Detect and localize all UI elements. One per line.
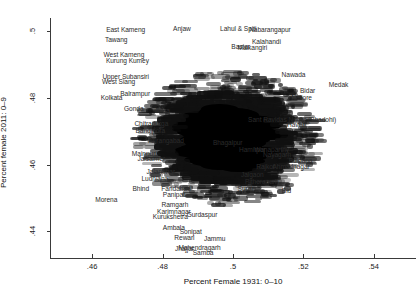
overplotted-label — [217, 130, 259, 137]
overplotted-label — [160, 115, 184, 118]
overplotted-label — [186, 115, 221, 120]
data-point-label: Nawada — [282, 71, 306, 78]
overplotted-label — [185, 128, 210, 134]
overplotted-label — [173, 87, 178, 91]
overplotted-label — [223, 70, 242, 73]
overplotted-label — [253, 109, 288, 115]
overplotted-label — [268, 130, 292, 134]
overplotted-label — [142, 162, 162, 165]
data-point-label: Bhind — [132, 185, 149, 192]
overplotted-label — [207, 156, 237, 166]
overplotted-label — [178, 114, 187, 119]
overplotted-label — [217, 86, 231, 90]
overplotted-label — [219, 156, 252, 160]
overplotted-label — [133, 145, 144, 150]
overplotted-label — [165, 124, 198, 128]
overplotted-label — [259, 96, 276, 100]
overplotted-label — [213, 176, 236, 181]
overplotted-label — [225, 169, 232, 175]
overplotted-label — [234, 113, 245, 118]
x-axis-title: Percent Female 1931: 0–10 — [184, 277, 283, 286]
data-point-label: Tawang — [105, 36, 127, 43]
overplotted-label — [225, 118, 233, 122]
overplotted-label — [276, 136, 293, 140]
overplotted-label — [166, 126, 191, 131]
overplotted-label — [201, 104, 239, 115]
overplotted-label — [186, 148, 223, 158]
overplotted-label — [204, 194, 226, 197]
overplotted-label — [169, 84, 176, 89]
overplotted-label — [212, 105, 243, 109]
overplotted-label — [252, 73, 260, 76]
overplotted-label — [269, 129, 287, 133]
overplotted-label — [291, 105, 296, 110]
overplotted-label — [205, 192, 213, 195]
overplotted-label — [217, 179, 235, 184]
overplotted-label — [168, 114, 175, 117]
overplotted-label — [215, 159, 245, 167]
overplotted-label — [193, 131, 222, 135]
overplotted-label — [210, 186, 228, 190]
overplotted-label — [200, 109, 230, 114]
overplotted-label — [274, 97, 282, 101]
overplotted-label — [192, 169, 205, 173]
data-point-label: Samba — [193, 250, 214, 257]
overplotted-label — [266, 110, 273, 114]
overplotted-label — [204, 126, 241, 132]
overplotted-label — [219, 100, 233, 106]
overplotted-label — [198, 114, 226, 118]
overplotted-label — [210, 108, 227, 114]
overplotted-label — [183, 105, 197, 110]
overplotted-label — [208, 178, 225, 181]
overplotted-label — [257, 130, 266, 134]
overplotted-label — [139, 142, 146, 145]
overplotted-label — [251, 101, 285, 106]
overplotted-label — [222, 76, 240, 80]
overplotted-label — [239, 124, 258, 131]
overplotted-label — [176, 88, 198, 93]
overplotted-label — [170, 92, 192, 95]
overplotted-label — [171, 98, 190, 103]
overplotted-label — [204, 153, 231, 160]
overplotted-label — [180, 99, 202, 105]
overplotted-label — [177, 165, 194, 171]
overplotted-label — [183, 146, 219, 151]
data-point-label: Surat — [238, 185, 254, 192]
overplotted-label — [288, 89, 294, 92]
overplotted-label — [197, 124, 229, 131]
overplotted-label — [200, 160, 242, 171]
overplotted-label — [170, 144, 196, 148]
overplotted-label — [280, 136, 294, 141]
overplotted-label — [263, 84, 274, 88]
overplotted-label — [216, 118, 248, 123]
overplotted-label — [207, 106, 246, 111]
overplotted-label — [208, 189, 223, 194]
overplotted-label — [213, 115, 247, 120]
overplotted-label — [220, 133, 257, 137]
overplotted-label — [209, 162, 228, 168]
overplotted-label — [224, 123, 238, 134]
overplotted-label — [233, 199, 238, 202]
overplotted-label — [254, 189, 266, 193]
overplotted-label — [168, 122, 188, 126]
overplotted-label — [227, 194, 235, 198]
overplotted-label — [167, 144, 178, 148]
overplotted-label — [263, 99, 280, 103]
overplotted-label — [229, 122, 248, 128]
overplotted-label — [226, 162, 252, 166]
overplotted-label — [186, 120, 216, 128]
overplotted-label — [197, 196, 204, 199]
data-point-label: Nabarangapur — [249, 26, 291, 33]
overplotted-label — [188, 171, 206, 176]
x-tick-label: .54 — [368, 262, 379, 271]
overplotted-label — [267, 127, 274, 133]
overplotted-label — [245, 94, 251, 98]
overplotted-label — [234, 119, 247, 123]
overplotted-label — [195, 113, 219, 123]
overplotted-label — [192, 171, 220, 175]
overplotted-label — [175, 122, 198, 127]
overplotted-label — [266, 110, 283, 114]
overplotted-label — [195, 196, 211, 199]
overplotted-label — [243, 128, 273, 133]
overplotted-label — [237, 110, 267, 114]
